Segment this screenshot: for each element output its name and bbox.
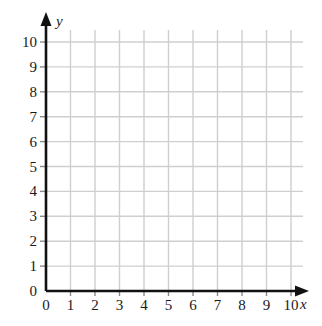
y-tick-label-4: 4: [30, 184, 38, 199]
y-tick-label-1: 1: [30, 259, 38, 274]
y-tick-label-0: 0: [30, 284, 38, 299]
y-tick-label-2: 2: [30, 234, 38, 249]
x-axis-arrowhead: [295, 286, 309, 297]
y-tick-label-7: 7: [30, 109, 38, 124]
x-axis-label: x: [300, 297, 307, 312]
x-axis-line: [46, 286, 309, 297]
y-axis-label: y: [56, 14, 63, 29]
y-axis-arrowhead: [41, 12, 52, 26]
y-tick-label-10: 10: [22, 35, 37, 50]
x-tick-label-10: 10: [284, 298, 299, 313]
x-tick-label-4: 4: [140, 298, 148, 313]
x-tick-label-6: 6: [189, 298, 197, 313]
x-tick-label-2: 2: [91, 298, 99, 313]
y-axis-line: [41, 12, 52, 291]
x-tick-label-7: 7: [214, 298, 222, 313]
plot-area: [0, 0, 322, 326]
x-tick-label-9: 9: [263, 298, 271, 313]
y-tick-label-6: 6: [30, 134, 38, 149]
x-tick-label-5: 5: [165, 298, 173, 313]
vertical-gridlines: [71, 30, 292, 291]
x-tick-label-8: 8: [238, 298, 246, 313]
horizontal-gridlines: [46, 42, 303, 266]
x-tick-label-1: 1: [67, 298, 75, 313]
x-tick-label-3: 3: [116, 298, 124, 313]
y-tick-label-3: 3: [30, 209, 38, 224]
y-tick-label-5: 5: [30, 159, 38, 174]
y-tick-label-9: 9: [30, 59, 38, 74]
y-tick-label-8: 8: [30, 84, 38, 99]
coordinate-grid-graph: 012345678910 012345678910 y x: [0, 0, 322, 326]
x-tick-label-0: 0: [42, 298, 50, 313]
